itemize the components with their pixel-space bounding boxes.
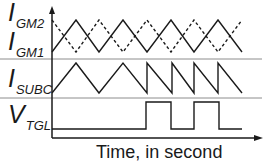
- label-vtgl-sub: TGL: [26, 118, 51, 133]
- label-igm2: IGM2: [8, 0, 44, 25]
- y-axis-arrow-icon: [49, 6, 55, 14]
- label-igm1-sub: GM1: [16, 45, 44, 60]
- trace-igm1: [52, 20, 242, 52]
- label-igm2-main: I: [8, 0, 15, 26]
- trace-vtgl: [52, 102, 242, 129]
- trace-isubc: [52, 63, 242, 93]
- label-isubc-main: I: [8, 64, 15, 92]
- x-axis-label: Time, in second: [96, 142, 222, 162]
- label-igm1: IGM1: [8, 29, 44, 54]
- label-isubc-sub: SUBC: [16, 82, 52, 97]
- trace-igm2: [52, 20, 242, 52]
- x-axis-arrow-icon: [254, 135, 263, 141]
- label-igm1-main: I: [8, 27, 15, 55]
- waveform-diagram: IGM2 IGM1 ISUBC VTGL Time, in second: [0, 0, 270, 166]
- label-vtgl-main: V: [8, 100, 25, 128]
- label-vtgl: VTGL: [8, 102, 51, 127]
- label-isubc: ISUBC: [8, 66, 52, 91]
